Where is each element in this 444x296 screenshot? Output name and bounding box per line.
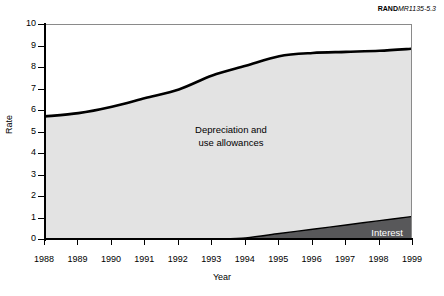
y-axis-tick (38, 218, 45, 219)
y-axis-tick (38, 24, 45, 25)
x-axis-tick (345, 240, 346, 245)
y-axis-tick (38, 46, 45, 47)
interest-area-label: Interest (345, 227, 403, 238)
y-axis-tick-labels: 012345678910 (16, 0, 36, 296)
y-axis-tick-label: 4 (22, 148, 36, 157)
y-axis-tick (38, 196, 45, 197)
figure-code-label: MR1135-5.3 (398, 5, 436, 12)
y-axis-tick-label: 5 (22, 127, 36, 136)
x-axis-tick (412, 240, 413, 245)
y-axis-tick (38, 175, 45, 176)
y-axis-tick (38, 153, 45, 154)
x-axis-tick (245, 240, 246, 245)
y-axis-tick-label: 0 (22, 234, 36, 243)
x-axis-tick (379, 240, 380, 245)
y-axis-tick-label: 8 (22, 62, 36, 71)
depreciation-area-label: Depreciation and use allowances (141, 123, 321, 149)
x-axis-tick (111, 240, 112, 245)
figure-container: RANDMR1135-5.3 Depreciation and use allo… (0, 0, 444, 296)
y-axis-tick-label: 3 (22, 170, 36, 179)
x-axis-tick (278, 240, 279, 245)
y-axis-tick-label: 2 (22, 191, 36, 200)
y-axis-tick-label: 6 (22, 105, 36, 114)
x-axis-tick (44, 240, 45, 245)
plot-area: Depreciation and use allowances Interest (44, 24, 412, 239)
y-axis-tick-label: 10 (22, 19, 36, 28)
x-axis-tick (312, 240, 313, 245)
x-axis-tick-label: 1999 (392, 254, 432, 264)
y-axis-tick (38, 67, 45, 68)
figure-source-label: RANDMR1135-5.3 (378, 4, 436, 13)
x-axis-tick (211, 240, 212, 245)
x-axis-title: Year (0, 272, 444, 282)
y-axis-tick-label: 7 (22, 84, 36, 93)
x-axis-tick (77, 240, 78, 245)
x-axis-tick (144, 240, 145, 245)
y-axis-title: Rate (5, 101, 14, 149)
y-axis-tick-label: 9 (22, 41, 36, 50)
y-axis-tick (38, 132, 45, 133)
y-axis-tick (38, 89, 45, 90)
y-axis-tick (38, 110, 45, 111)
rand-brand-label: RAND (378, 5, 398, 12)
depreciation-label-line1: Depreciation and (141, 123, 321, 136)
depreciation-label-line2: use allowances (141, 136, 321, 149)
x-axis-line (44, 238, 413, 240)
y-axis-tick-label: 1 (22, 213, 36, 222)
x-axis-tick (178, 240, 179, 245)
